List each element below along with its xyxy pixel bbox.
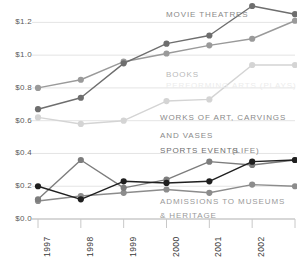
series-label-museums-1: ADMISSIONS TO MUSEUMS: [160, 197, 285, 206]
x-axis-tick-label-1997: 1997: [42, 236, 52, 257]
x-axis-tick-label-1999: 1999: [128, 236, 138, 257]
line-chart: $0.0$0.2$0.4$0.6$0.8$1.0$1.2 19971998199…: [0, 0, 297, 262]
series-label-museums-2: & HERITAGE: [160, 211, 217, 220]
series-label-works-of-art-2: AND VASES: [160, 131, 213, 140]
x-axis-tick-label-2002: 2002: [256, 236, 266, 257]
series-label-books: BOOKS: [166, 70, 199, 79]
x-axis-tick-label-2000: 2000: [171, 236, 181, 257]
series-label-performing-arts: PERFORMING ARTS (PLAYS): [166, 81, 297, 90]
series-label-works-of-art-1: WORKS OF ART, CARVINGS: [160, 113, 286, 122]
series-label-movie-theatres: MOVIE THEATRES: [166, 10, 249, 19]
x-axis-tick-label-1998: 1998: [85, 236, 95, 257]
series-label-sports-events-life: (LIFE): [232, 146, 260, 155]
x-axis-tick-label-2001: 2001: [213, 236, 223, 257]
x-axis: 1997199819992000200120022003: [0, 0, 297, 262]
series-label-sports-events: SPORTS EVENTS: [160, 146, 239, 155]
